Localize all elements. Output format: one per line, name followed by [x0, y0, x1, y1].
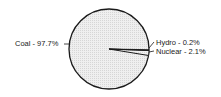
pie-chart: Coal - 97.7% Hydro - 0.2% Nuclear - 2.1% [0, 0, 221, 97]
coal-label: Coal - 97.7% [15, 39, 59, 48]
hydro-label: Hydro - 0.2% [156, 38, 200, 47]
hydro-leader-line [149, 42, 154, 48]
nuclear-leader-line [149, 51, 154, 52]
nuclear-label: Nuclear - 2.1% [156, 47, 206, 56]
